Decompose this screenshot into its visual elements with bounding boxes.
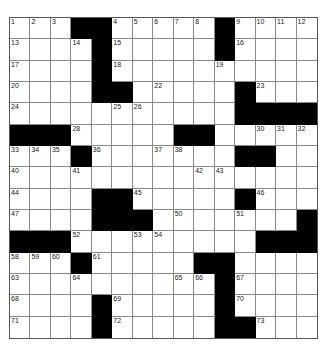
- crossword-cell[interactable]: [51, 39, 71, 60]
- crossword-cell[interactable]: [153, 39, 173, 60]
- crossword-cell[interactable]: [51, 167, 71, 188]
- crossword-cell[interactable]: [174, 82, 194, 103]
- crossword-cell[interactable]: [256, 61, 276, 82]
- crossword-cell[interactable]: 12: [297, 18, 317, 39]
- crossword-cell[interactable]: [133, 167, 153, 188]
- crossword-cell[interactable]: [235, 231, 255, 252]
- crossword-cell[interactable]: 64: [71, 274, 91, 295]
- crossword-cell[interactable]: [112, 167, 132, 188]
- crossword-cell[interactable]: [30, 61, 50, 82]
- crossword-cell[interactable]: 68: [10, 295, 30, 316]
- crossword-cell[interactable]: 54: [153, 231, 173, 252]
- crossword-cell[interactable]: [235, 253, 255, 274]
- crossword-cell[interactable]: [174, 61, 194, 82]
- crossword-cell[interactable]: 22: [153, 82, 173, 103]
- crossword-cell[interactable]: [133, 39, 153, 60]
- crossword-cell[interactable]: 61: [92, 253, 112, 274]
- crossword-cell[interactable]: [194, 146, 214, 167]
- crossword-cell[interactable]: [153, 210, 173, 231]
- crossword-cell[interactable]: [174, 231, 194, 252]
- crossword-cell[interactable]: [51, 189, 71, 210]
- crossword-cell[interactable]: [112, 231, 132, 252]
- crossword-cell[interactable]: [51, 210, 71, 231]
- crossword-cell[interactable]: 38: [174, 146, 194, 167]
- crossword-cell[interactable]: 58: [10, 253, 30, 274]
- crossword-cell[interactable]: [297, 189, 317, 210]
- crossword-cell[interactable]: 59: [30, 253, 50, 274]
- crossword-cell[interactable]: [235, 125, 255, 146]
- crossword-cell[interactable]: [30, 317, 50, 338]
- crossword-cell[interactable]: 7: [174, 18, 194, 39]
- crossword-cell[interactable]: [112, 125, 132, 146]
- crossword-cell[interactable]: [215, 82, 235, 103]
- crossword-cell[interactable]: [153, 61, 173, 82]
- crossword-cell[interactable]: [174, 253, 194, 274]
- crossword-cell[interactable]: [235, 167, 255, 188]
- crossword-cell[interactable]: [30, 295, 50, 316]
- crossword-cell[interactable]: 18: [112, 61, 132, 82]
- crossword-cell[interactable]: [215, 231, 235, 252]
- crossword-cell[interactable]: [153, 167, 173, 188]
- crossword-cell[interactable]: [51, 317, 71, 338]
- crossword-cell[interactable]: 35: [51, 146, 71, 167]
- crossword-cell[interactable]: 44: [10, 189, 30, 210]
- crossword-cell[interactable]: [92, 231, 112, 252]
- crossword-cell[interactable]: 65: [174, 274, 194, 295]
- crossword-cell[interactable]: [174, 167, 194, 188]
- crossword-cell[interactable]: [194, 61, 214, 82]
- crossword-cell[interactable]: [71, 61, 91, 82]
- crossword-cell[interactable]: [71, 189, 91, 210]
- crossword-cell[interactable]: [194, 39, 214, 60]
- crossword-cell[interactable]: 24: [10, 103, 30, 124]
- crossword-cell[interactable]: [256, 39, 276, 60]
- crossword-cell[interactable]: [133, 146, 153, 167]
- crossword-cell[interactable]: [133, 253, 153, 274]
- crossword-cell[interactable]: 37: [153, 146, 173, 167]
- crossword-cell[interactable]: 47: [10, 210, 30, 231]
- crossword-cell[interactable]: [30, 274, 50, 295]
- crossword-cell[interactable]: [276, 295, 296, 316]
- crossword-cell[interactable]: [30, 210, 50, 231]
- crossword-cell[interactable]: [256, 274, 276, 295]
- crossword-cell[interactable]: [112, 146, 132, 167]
- crossword-cell[interactable]: [215, 125, 235, 146]
- crossword-cell[interactable]: [133, 125, 153, 146]
- crossword-cell[interactable]: [51, 61, 71, 82]
- crossword-cell[interactable]: 72: [112, 317, 132, 338]
- crossword-cell[interactable]: [276, 146, 296, 167]
- crossword-cell[interactable]: [215, 146, 235, 167]
- crossword-cell[interactable]: [215, 210, 235, 231]
- crossword-cell[interactable]: 69: [112, 295, 132, 316]
- crossword-cell[interactable]: [194, 82, 214, 103]
- crossword-cell[interactable]: 52: [71, 231, 91, 252]
- crossword-cell[interactable]: 3: [51, 18, 71, 39]
- crossword-cell[interactable]: [133, 274, 153, 295]
- crossword-cell[interactable]: [276, 253, 296, 274]
- crossword-cell[interactable]: [297, 274, 317, 295]
- crossword-cell[interactable]: [133, 82, 153, 103]
- crossword-cell[interactable]: [194, 210, 214, 231]
- crossword-cell[interactable]: [276, 82, 296, 103]
- crossword-cell[interactable]: [92, 274, 112, 295]
- crossword-cell[interactable]: [92, 167, 112, 188]
- crossword-cell[interactable]: [51, 82, 71, 103]
- crossword-cell[interactable]: [153, 253, 173, 274]
- crossword-cell[interactable]: [30, 39, 50, 60]
- crossword-cell[interactable]: [256, 210, 276, 231]
- crossword-cell[interactable]: [194, 189, 214, 210]
- crossword-cell[interactable]: 23: [256, 82, 276, 103]
- crossword-cell[interactable]: 67: [235, 274, 255, 295]
- crossword-cell[interactable]: 17: [10, 61, 30, 82]
- crossword-cell[interactable]: 60: [51, 253, 71, 274]
- crossword-cell[interactable]: [92, 103, 112, 124]
- crossword-cell[interactable]: [51, 103, 71, 124]
- crossword-cell[interactable]: 53: [133, 231, 153, 252]
- crossword-cell[interactable]: 33: [10, 146, 30, 167]
- crossword-cell[interactable]: [276, 39, 296, 60]
- crossword-cell[interactable]: 19: [215, 61, 235, 82]
- crossword-cell[interactable]: 2: [30, 18, 50, 39]
- crossword-cell[interactable]: 25: [112, 103, 132, 124]
- crossword-cell[interactable]: [30, 189, 50, 210]
- crossword-cell[interactable]: [174, 103, 194, 124]
- crossword-cell[interactable]: [153, 274, 173, 295]
